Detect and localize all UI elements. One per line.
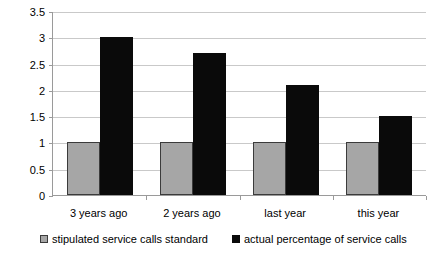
y-axis-tick: [49, 143, 53, 144]
y-axis-label: 1: [39, 138, 45, 149]
plot-area: 00.511.522.533.5: [52, 12, 425, 196]
bar: [160, 142, 193, 195]
y-axis-label: 0: [39, 191, 45, 202]
y-axis-label: 3: [39, 33, 45, 44]
legend-entry: stipulated service calls standard: [40, 232, 208, 246]
chart-legend: stipulated service calls standardactual …: [0, 232, 437, 250]
bar: [100, 37, 133, 195]
y-axis-tick: [49, 12, 53, 13]
black-swatch: [232, 235, 240, 243]
bar: [379, 116, 412, 195]
bar-chart: 00.511.522.533.5 3 years ago2 years agol…: [0, 0, 437, 263]
x-axis-tick: [333, 196, 334, 200]
category-label: this year: [358, 207, 400, 219]
legend-label: stipulated service calls standard: [52, 233, 208, 245]
y-axis-tick: [49, 65, 53, 66]
category-label: 2 years ago: [163, 207, 220, 219]
bar: [67, 142, 100, 195]
y-axis-tick: [49, 91, 53, 92]
gray-swatch: [40, 235, 48, 243]
legend-entry: actual percentage of service calls: [232, 232, 407, 246]
y-axis-label: 2: [39, 85, 45, 96]
x-axis-tick: [240, 196, 241, 200]
legend-label: actual percentage of service calls: [244, 233, 407, 245]
bar: [286, 85, 319, 195]
y-axis-tick: [49, 170, 53, 171]
y-axis-tick: [49, 38, 53, 39]
y-axis-label: 3.5: [30, 7, 45, 18]
category-label: last year: [264, 207, 306, 219]
category-label: 3 years ago: [70, 207, 127, 219]
y-axis-tick: [49, 117, 53, 118]
y-axis-label: 2.5: [30, 59, 45, 70]
bar: [253, 142, 286, 195]
gridline: [53, 12, 426, 13]
x-axis-tick: [146, 196, 147, 200]
bar: [346, 142, 379, 195]
y-axis-label: 1.5: [30, 112, 45, 123]
y-axis-label: 0.5: [30, 164, 45, 175]
bar: [193, 53, 226, 195]
x-axis-tick: [426, 196, 427, 200]
y-axis-tick: [49, 196, 53, 197]
